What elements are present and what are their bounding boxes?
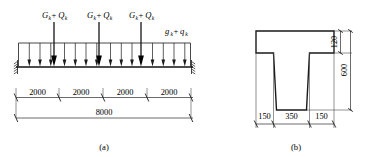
t-section-outline	[256, 31, 334, 110]
beam-diagram-svg: G k + Q k G k + Q k G k + Q k	[0, 0, 230, 157]
right-support	[192, 60, 196, 74]
point-load-2-q-sub: k	[110, 15, 113, 21]
span-label-2: 2000	[73, 88, 90, 97]
udl-g: g	[165, 26, 170, 36]
span-label-1: 2000	[29, 88, 46, 97]
total-depth-label: 600	[340, 64, 349, 77]
total-dimension-line: 8000	[14, 98, 193, 122]
panel-b-cross-section: 120 600 150 350	[230, 0, 367, 157]
point-load-3-q-sub: k	[152, 15, 155, 21]
section-diagram-svg: 120 600 150 350	[230, 0, 367, 157]
distributed-load-label: g k + q k	[165, 26, 188, 37]
span-label-4: 2000	[161, 88, 178, 97]
web-width-label: 350	[285, 112, 298, 121]
total-span-label: 8000	[96, 108, 113, 117]
overhang-left-label: 150	[258, 112, 271, 121]
width-dimensions: 150 350 150	[254, 53, 336, 128]
overhang-right-label: 150	[315, 112, 328, 121]
point-load-1-q-sub: k	[65, 15, 68, 21]
point-load-3-operator: +	[139, 10, 144, 20]
caption-a: (a)	[99, 142, 109, 152]
udl-arrows	[28, 43, 187, 67]
point-load-label-3: G k + Q k	[129, 10, 155, 21]
udl-operator: +	[173, 26, 178, 36]
flange-thickness-label: 120	[330, 36, 339, 49]
point-load-label-1: G k + Q k	[42, 10, 68, 21]
point-load-label-2: G k + Q k	[87, 10, 113, 21]
point-load-arrow-3	[138, 22, 144, 67]
figure-container: G k + Q k G k + Q k G k + Q k	[0, 0, 367, 157]
depth-dimensions: 120 600	[307, 29, 353, 111]
caption-b: (b)	[291, 142, 301, 152]
left-support	[14, 60, 18, 74]
point-load-2-operator: +	[97, 10, 102, 20]
point-load-1-operator: +	[52, 10, 57, 20]
panel-a-beam-loading: G k + Q k G k + Q k G k + Q k	[0, 0, 230, 157]
span-label-3: 2000	[117, 88, 134, 97]
span-dimension-line: 2000 2000 2000 2000	[14, 88, 193, 102]
udl-q-sub: k	[185, 31, 188, 37]
